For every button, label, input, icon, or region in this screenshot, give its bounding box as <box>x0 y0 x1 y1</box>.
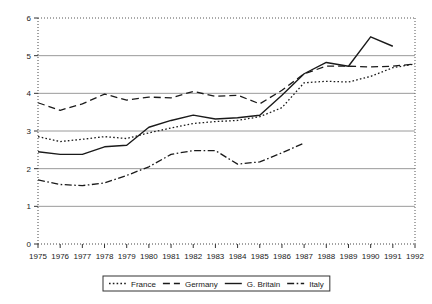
chart-legend: FranceGermanyG. BritainItaly <box>103 276 330 291</box>
legend-label-g-britain: G. Britain <box>247 280 280 289</box>
series-line-g-britain <box>38 37 393 155</box>
y-tick-label: 3 <box>27 127 32 136</box>
x-tick-label: 1975 <box>29 252 47 261</box>
x-tick-label: 1985 <box>251 252 269 261</box>
y-tick-label: 5 <box>27 52 32 61</box>
x-tick-label: 1982 <box>184 252 202 261</box>
legend-label-italy: Italy <box>309 280 324 289</box>
x-tick-label: 1992 <box>406 252 424 261</box>
y-tick-label: 4 <box>27 89 32 98</box>
x-tick-label: 1988 <box>317 252 335 261</box>
chart-container: 0123456 19751976197719781979198019811982… <box>0 0 432 304</box>
series-line-germany <box>38 64 415 110</box>
x-tick-label: 1991 <box>384 252 402 261</box>
x-tick-label: 1987 <box>295 252 313 261</box>
y-tick-label: 2 <box>27 165 32 174</box>
series-line-italy <box>38 143 304 186</box>
x-tick-label: 1979 <box>118 252 136 261</box>
data-series-layer <box>38 37 415 186</box>
y-tick-label: 0 <box>27 240 32 249</box>
series-line-france <box>38 64 415 142</box>
x-tick-label: 1984 <box>229 252 247 261</box>
line-chart: 0123456 19751976197719781979198019811982… <box>0 0 432 304</box>
x-tick-label: 1990 <box>362 252 380 261</box>
x-tick-label: 1986 <box>273 252 291 261</box>
legend-label-france: France <box>131 280 156 289</box>
y-tick-label: 6 <box>27 14 32 23</box>
x-tick-label: 1977 <box>73 252 91 261</box>
x-tick-label: 1989 <box>340 252 358 261</box>
x-tick-label: 1978 <box>96 252 114 261</box>
x-tick-label: 1980 <box>140 252 158 261</box>
x-axis-ticks: 1975197619771978197919801981198219831984… <box>29 244 424 261</box>
y-tick-label: 1 <box>27 202 32 211</box>
x-tick-label: 1983 <box>207 252 225 261</box>
x-tick-label: 1976 <box>51 252 69 261</box>
legend-label-germany: Germany <box>185 280 218 289</box>
y-axis-ticks: 0123456 <box>27 14 38 249</box>
x-tick-label: 1981 <box>162 252 180 261</box>
